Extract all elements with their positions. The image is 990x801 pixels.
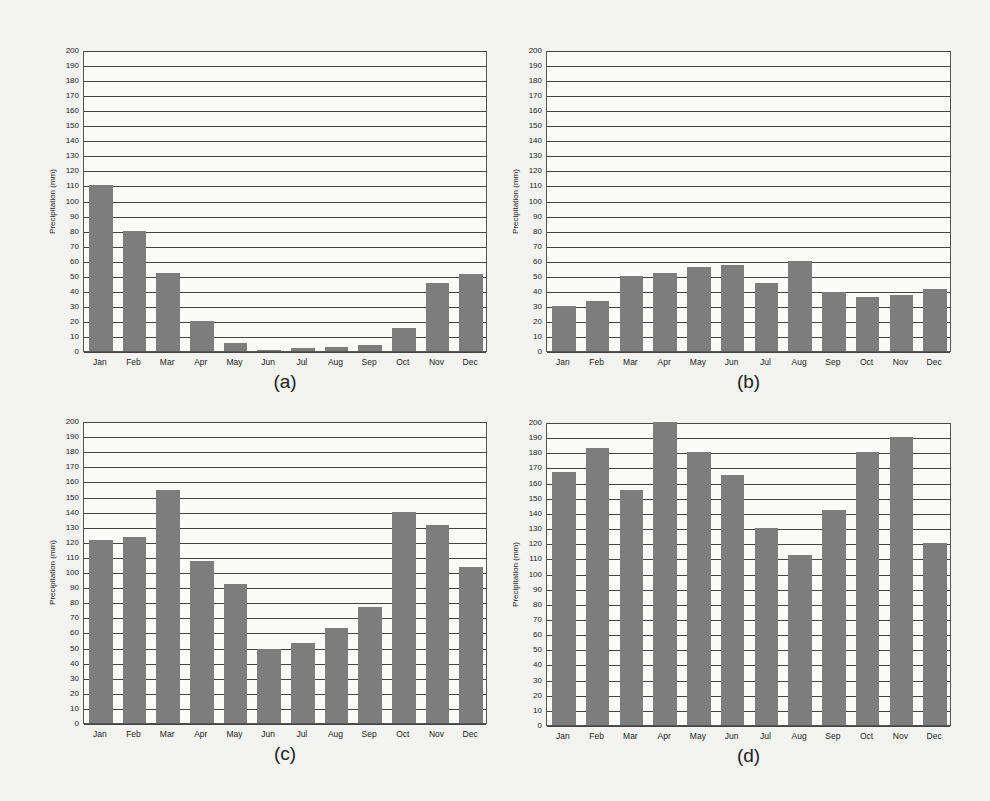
y-tick-label: 120: [55, 538, 79, 547]
bar-apr: [653, 422, 677, 725]
bar-dec: [923, 543, 947, 725]
chart-caption: (d): [546, 745, 951, 767]
y-tick-label: 140: [55, 508, 79, 517]
bar-sep: [822, 510, 846, 725]
y-tick-label: 200: [518, 418, 542, 427]
bar-oct: [392, 328, 416, 351]
y-tick-label: 130: [518, 524, 542, 533]
bar-nov: [890, 437, 914, 725]
chart-a-plot-area: [83, 51, 487, 352]
bar-jun: [721, 475, 745, 725]
bar-mar: [156, 490, 180, 723]
gridline: [547, 247, 950, 248]
bar-sep: [822, 292, 846, 351]
chart-caption: (c): [83, 743, 487, 765]
y-tick-label: 200: [55, 46, 79, 55]
bar-aug: [788, 261, 812, 351]
x-tick-label: Jun: [251, 357, 285, 367]
gridline: [547, 352, 950, 353]
y-tick-label: 50: [518, 272, 542, 281]
y-tick-label: 10: [55, 332, 79, 341]
y-tick-label: 150: [518, 121, 542, 130]
x-tick-label: Sep: [816, 731, 850, 741]
x-tick-label: Nov: [884, 357, 918, 367]
y-tick-label: 140: [518, 509, 542, 518]
gridline: [84, 51, 486, 52]
bar-sep: [358, 607, 382, 723]
y-tick-label: 160: [518, 479, 542, 488]
x-tick-label: May: [681, 357, 715, 367]
y-tick-label: 190: [518, 61, 542, 70]
x-tick-label: Jul: [285, 357, 319, 367]
x-tick-label: Nov: [884, 731, 918, 741]
y-tick-label: 170: [518, 463, 542, 472]
x-tick-label: Mar: [150, 729, 184, 739]
gridline: [84, 66, 486, 67]
bar-dec: [459, 567, 483, 723]
chart-c-plot-area: [83, 422, 487, 724]
x-tick-label: Feb: [580, 357, 614, 367]
gridline: [547, 232, 950, 233]
y-tick-label: 110: [518, 181, 542, 190]
y-tick-label: 90: [55, 583, 79, 592]
y-tick-label: 130: [55, 523, 79, 532]
y-tick-label: 150: [55, 493, 79, 502]
x-tick-label: May: [218, 357, 252, 367]
gridline: [84, 126, 486, 127]
bar-may: [687, 267, 711, 351]
y-tick-label: 180: [518, 76, 542, 85]
x-tick-label: Oct: [386, 729, 420, 739]
gridline: [547, 66, 950, 67]
x-tick-label: Dec: [917, 731, 951, 741]
bar-jul: [291, 348, 315, 351]
x-tick-label: Mar: [614, 731, 648, 741]
y-tick-label: 110: [55, 181, 79, 190]
y-tick-label: 100: [55, 197, 79, 206]
y-tick-label: 0: [55, 347, 79, 356]
gridline: [84, 452, 486, 453]
y-tick-label: 20: [518, 691, 542, 700]
y-tick-label: 80: [518, 227, 542, 236]
y-tick-label: 120: [518, 166, 542, 175]
bar-apr: [190, 321, 214, 351]
gridline: [547, 726, 950, 727]
y-tick-label: 190: [55, 61, 79, 70]
y-tick-label: 140: [518, 136, 542, 145]
x-tick-label: Jun: [715, 731, 749, 741]
y-axis-label: Precipitation (mm): [511, 519, 520, 629]
bar-may: [224, 584, 248, 723]
bar-nov: [426, 525, 450, 723]
y-tick-label: 50: [55, 272, 79, 281]
bar-feb: [586, 448, 610, 725]
y-tick-label: 60: [55, 257, 79, 266]
gridline: [547, 423, 950, 424]
bar-jan: [89, 185, 113, 351]
gridline: [547, 262, 950, 263]
y-tick-label: 120: [55, 166, 79, 175]
y-tick-label: 150: [518, 494, 542, 503]
chart-caption: (a): [83, 371, 487, 393]
x-tick-label: Feb: [117, 357, 151, 367]
x-tick-label: Feb: [580, 731, 614, 741]
y-tick-label: 100: [518, 570, 542, 579]
y-tick-label: 0: [518, 347, 542, 356]
y-tick-label: 60: [518, 630, 542, 639]
y-tick-label: 200: [518, 46, 542, 55]
gridline: [84, 111, 486, 112]
x-tick-label: May: [681, 731, 715, 741]
gridline: [547, 96, 950, 97]
gridline: [84, 156, 486, 157]
y-tick-label: 110: [55, 553, 79, 562]
y-tick-label: 40: [518, 287, 542, 296]
bar-aug: [325, 628, 349, 723]
y-tick-label: 10: [518, 706, 542, 715]
y-tick-label: 80: [55, 598, 79, 607]
bar-oct: [856, 297, 880, 351]
chart-b-plot-area: [546, 51, 951, 352]
y-tick-label: 40: [55, 287, 79, 296]
x-tick-label: Jun: [251, 729, 285, 739]
y-tick-label: 50: [55, 644, 79, 653]
gridline: [84, 422, 486, 423]
bar-jul: [755, 528, 779, 725]
y-tick-label: 160: [55, 477, 79, 486]
